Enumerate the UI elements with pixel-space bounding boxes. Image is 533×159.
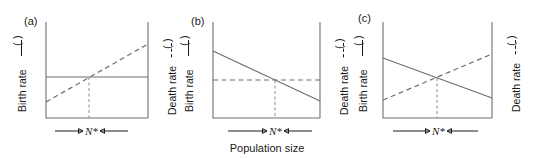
- panel-c-ylabel-left: Birth rate: [357, 69, 369, 112]
- panel-a-death-rate-line: [46, 44, 148, 102]
- figure-canvas: (a) ( ) Birth rate ( ) Death rate: [0, 0, 533, 159]
- panel-b-nstar-label: N*: [268, 125, 282, 137]
- panel-a: (a) ( ) Birth rate ( ) Death rate: [11, 15, 178, 137]
- panel-b-ylabel-left: Birth rate: [183, 69, 195, 112]
- panel-b-nstar-annotation: N*: [228, 125, 312, 137]
- panel-a-ylabel-left: Birth rate: [16, 69, 28, 112]
- x-axis-label: Population size: [230, 142, 305, 154]
- panel-b-axes: [213, 22, 320, 118]
- panel-a-birth-legend: ( ): [11, 35, 23, 56]
- panel-c-axes: [383, 22, 492, 118]
- panel-a-ylabel-right: Death rate: [166, 66, 178, 115]
- panel-b-birth-rate-line: [213, 51, 320, 101]
- panel-b-ylabel-right: Death rate: [338, 66, 350, 115]
- paren-close: ): [505, 35, 517, 39]
- panel-c: (c) ( ) Birth rate ( ) Death rate: [352, 12, 522, 137]
- panel-c-nstar-annotation: N*: [393, 125, 478, 137]
- panel-c-ylabel-right: Death rate: [510, 63, 522, 112]
- paren-close: ): [333, 38, 345, 42]
- panel-a-axes: [46, 22, 148, 118]
- panel-b-birth-legend: ( ): [178, 35, 190, 56]
- paren-close: ): [11, 35, 23, 39]
- panel-c-death-legend: ( ): [505, 35, 517, 56]
- panel-b-label: (b): [191, 15, 204, 27]
- panel-a-death-legend: ( ): [161, 38, 173, 59]
- panel-c-birth-legend: ( ): [352, 35, 364, 56]
- paren-close: ): [161, 38, 173, 42]
- population-regulation-figure: (a) ( ) Birth rate ( ) Death rate: [0, 0, 533, 159]
- panel-a-label: (a): [24, 15, 37, 27]
- panel-a-nstar-annotation: N*: [55, 125, 128, 137]
- paren-close: ): [178, 35, 190, 39]
- panel-b: (b) ( ) Birth rate ( ) Death rate: [178, 15, 350, 154]
- panel-b-death-legend: ( ): [333, 38, 345, 59]
- panel-c-death-rate-line: [383, 54, 492, 100]
- paren-close: ): [352, 35, 364, 39]
- panel-a-nstar-label: N*: [84, 125, 98, 137]
- panel-c-label: (c): [358, 12, 371, 24]
- panel-c-nstar-label: N*: [431, 125, 445, 137]
